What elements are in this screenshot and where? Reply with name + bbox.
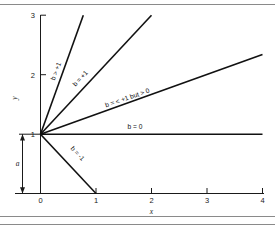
- y-axis-title: y: [10, 96, 19, 101]
- chart-svg: 0 1 2 3 4 1 2 3 x y a: [0, 0, 275, 229]
- y-tick-label-2: 2: [31, 71, 35, 80]
- dimension-arrowhead-up: [20, 134, 25, 140]
- x-tick-label-1: 1: [94, 196, 98, 205]
- y-tick-label-3: 3: [31, 11, 35, 20]
- line-b-between-0-and-1: [41, 55, 263, 135]
- intercept-dimension: a: [16, 134, 41, 193]
- line-b-greater-than-1: [41, 15, 84, 134]
- label-b-equals-0: b = 0: [128, 123, 143, 130]
- x-axis-title: x: [149, 207, 154, 216]
- x-tick-label-4: 4: [260, 196, 264, 205]
- x-tick-label-2: 2: [149, 196, 153, 205]
- y-axis-ticks: [41, 15, 47, 134]
- x-axis-ticks: [41, 188, 263, 194]
- x-tick-label-3: 3: [205, 196, 209, 205]
- dimension-arrowhead-down: [20, 187, 25, 193]
- dimension-label-a: a: [16, 159, 20, 168]
- line-b-equals-minus-1: [41, 134, 97, 193]
- x-tick-label-0: 0: [38, 196, 42, 205]
- figure-container: 0 1 2 3 4 1 2 3 x y a: [0, 0, 275, 229]
- label-b-equals-minus-1: b = -1: [69, 145, 86, 162]
